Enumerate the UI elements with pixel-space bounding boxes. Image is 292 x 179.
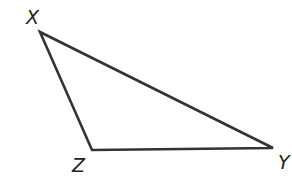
vertex-label-x: X xyxy=(25,6,40,28)
vertex-label-z: Z xyxy=(71,154,86,176)
triangle-diagram: X Y Z xyxy=(0,0,292,179)
triangle-xyz xyxy=(40,32,273,150)
vertex-label-y: Y xyxy=(278,151,291,173)
